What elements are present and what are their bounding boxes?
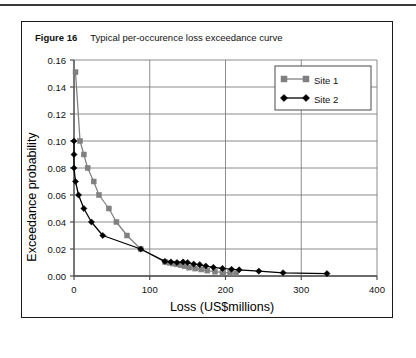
x-axis-tick-labels: 0100200300400	[71, 284, 385, 295]
y-tick-label: 0.16	[48, 55, 67, 66]
data-point-marker	[280, 270, 286, 276]
data-point-marker	[71, 151, 77, 157]
data-point-marker	[71, 138, 77, 144]
y-tick-label: 0.12	[48, 109, 67, 120]
data-point-marker	[114, 220, 119, 225]
x-axis-title: Loss (US$millions)	[170, 300, 274, 314]
data-point-marker	[81, 152, 86, 157]
y-tick-label: 0.10	[48, 136, 67, 147]
y-tick-label: 0.14	[48, 82, 67, 93]
figure-label: Figure 16	[35, 32, 77, 43]
y-tick-label: 0.08	[48, 163, 67, 174]
figure-caption: Figure 16Typical per-occurence loss exce…	[35, 32, 282, 43]
x-tick-label: 200	[218, 284, 234, 295]
exceedance-curve-chart: 0.000.020.040.060.080.100.120.140.16 010…	[22, 47, 394, 317]
data-point-marker	[96, 193, 101, 198]
legend-marker-icon	[303, 76, 309, 82]
x-tick-label: 100	[142, 284, 158, 295]
data-point-marker	[71, 165, 77, 171]
page-top-rule	[0, 4, 416, 6]
data-point-marker	[73, 70, 78, 75]
legend-label: Site 1	[314, 75, 338, 86]
data-point-marker	[125, 233, 130, 238]
figure-title: Typical per-occurence loss exceedance cu…	[90, 32, 282, 43]
y-axis-tick-labels: 0.000.020.040.060.080.100.120.140.16	[48, 55, 67, 282]
legend-label: Site 2	[314, 94, 338, 105]
data-point-marker	[78, 139, 83, 144]
chart-legend: Site 1Site 2	[275, 66, 371, 110]
y-tick-label: 0.06	[48, 190, 67, 201]
data-point-marker	[106, 206, 111, 211]
legend-marker-icon	[281, 76, 287, 82]
x-tick-label: 300	[293, 284, 309, 295]
x-tick-label: 0	[71, 284, 76, 295]
data-point-marker	[91, 179, 96, 184]
chart-plot-area: 0.000.020.040.060.080.100.120.140.16 010…	[22, 47, 394, 317]
figure-container: Figure 16Typical per-occurence loss exce…	[21, 21, 393, 318]
data-point-marker	[85, 166, 90, 171]
series-site-1	[73, 70, 239, 276]
y-tick-label: 0.04	[48, 217, 67, 228]
data-point-marker	[75, 192, 81, 198]
y-tick-label: 0.00	[48, 271, 67, 282]
y-axis-title: Exceedance probability	[25, 132, 39, 262]
data-point-marker	[72, 178, 78, 184]
data-point-marker	[187, 265, 192, 270]
data-point-marker	[256, 268, 262, 274]
x-tick-label: 400	[369, 284, 385, 295]
data-point-marker	[81, 205, 87, 211]
y-tick-label: 0.02	[48, 244, 67, 255]
